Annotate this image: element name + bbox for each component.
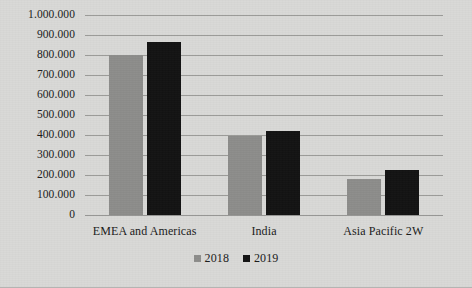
legend-entry-2018: 2018	[194, 252, 229, 264]
bar-group	[347, 15, 419, 215]
bar-2018	[347, 179, 381, 215]
x-axis-tick-label: EMEA and Americas	[93, 222, 197, 240]
x-axis-tick-label: India	[251, 222, 276, 240]
y-axis: 1.000.000900.000800.000700.000600.000500…	[0, 0, 82, 230]
y-axis-tick-label: 0	[69, 209, 75, 221]
bar-2018	[228, 136, 262, 215]
bar-2019	[266, 131, 300, 215]
gridline	[85, 215, 443, 216]
y-axis-tick-label: 900.000	[37, 29, 75, 41]
bar-2019	[385, 170, 419, 215]
y-axis-tick-label: 800.000	[37, 49, 75, 61]
x-axis: EMEA and AmericasIndiaAsia Pacific 2W	[85, 222, 443, 244]
bar-2018	[109, 55, 143, 215]
legend-entry-2019: 2019	[243, 252, 278, 264]
legend-swatch-icon	[243, 255, 250, 262]
y-axis-tick-label: 600.000	[37, 89, 75, 101]
y-axis-tick-label: 700.000	[37, 69, 75, 81]
y-axis-tick-label: 100.000	[37, 189, 75, 201]
bar-chart-figure: 1.000.000900.000800.000700.000600.000500…	[0, 0, 472, 288]
y-axis-tick-label: 1.000.000	[28, 9, 75, 21]
legend-label: 2018	[205, 252, 229, 264]
y-axis-tick-label: 200.000	[37, 169, 75, 181]
y-axis-tick-label: 500.000	[37, 109, 75, 121]
bars-layer	[85, 15, 443, 215]
y-axis-tick-label: 400.000	[37, 129, 75, 141]
y-axis-tick-label: 300.000	[37, 149, 75, 161]
x-axis-tick-label: Asia Pacific 2W	[343, 222, 423, 240]
bar-2019	[147, 42, 181, 215]
plot-area	[85, 15, 443, 215]
chart-legend: 20182019	[0, 252, 472, 264]
bar-group	[109, 15, 181, 215]
legend-label: 2019	[254, 252, 278, 264]
bar-group	[228, 15, 300, 215]
legend-swatch-icon	[194, 255, 201, 262]
